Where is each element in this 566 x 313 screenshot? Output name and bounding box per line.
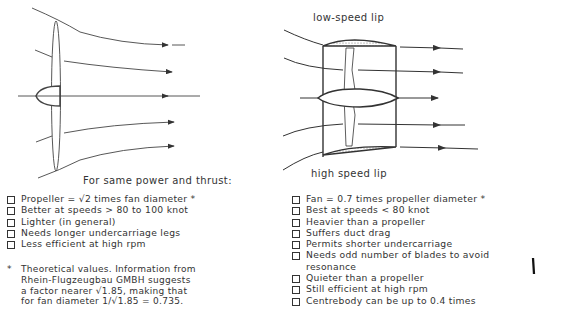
propeller-points-list: Propeller = √2 times fan diameter * Bett… [7, 193, 196, 249]
low-speed-lip-label: low-speed lip [313, 12, 384, 23]
footnote-text: Theoretical values. Information from Rhe… [21, 264, 196, 307]
ducted-fan-drawing [283, 30, 478, 170]
fan-points-list: Fan = 0.7 times propeller diameter * Bes… [292, 193, 506, 306]
list-item: Heavier than a propeller [292, 216, 506, 227]
list-item: Fan = 0.7 times propeller diameter * [292, 193, 506, 204]
list-item: Propeller = √2 times fan diameter * [7, 193, 196, 204]
list-item: Quieter than a propeller [292, 272, 506, 283]
list-item: Suffers duct drag [292, 227, 506, 238]
high-speed-lip-label: high speed lip [311, 168, 387, 179]
list-item: Best at speeds < 80 knot [292, 204, 506, 215]
list-item: Centrebody can be up to 0.4 times [292, 295, 506, 306]
list-item: Still efficient at high rpm [292, 283, 506, 294]
footnote: * Theoretical values. Information from R… [7, 264, 196, 307]
list-item: Needs longer undercarriage legs [7, 227, 196, 238]
list-item: Needs odd number of blades to avoid reso… [292, 249, 506, 272]
margin-mark [533, 258, 534, 274]
list-item: Lighter (in general) [7, 216, 196, 227]
open-propeller-drawing [18, 8, 200, 178]
list-item: Less efficient at high rpm [7, 238, 196, 249]
comparison-heading: For same power and thrust: [83, 175, 232, 186]
list-item: Better at speeds > 80 to 100 knot [7, 204, 196, 215]
list-item: Permits shorter undercarriage [292, 238, 506, 249]
footnote-marker: * [7, 264, 12, 275]
